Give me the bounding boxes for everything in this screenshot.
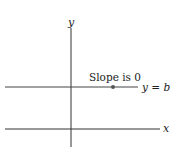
x-axis-label: x	[163, 122, 170, 135]
slope-annotation: Slope is 0	[89, 71, 141, 83]
line-equation-label: y = b	[141, 81, 170, 93]
point-on-line	[111, 85, 115, 89]
diagram-canvas: y x y = b Slope is 0	[0, 0, 176, 156]
y-axis-label: y	[67, 16, 75, 29]
